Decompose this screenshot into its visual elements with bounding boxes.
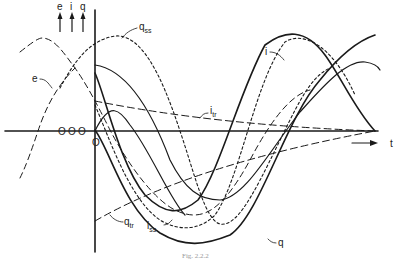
- label-origin: O: [92, 137, 100, 148]
- label-axis-q: q: [80, 1, 86, 12]
- arrow-up-icon: [81, 12, 86, 19]
- label-t: t: [390, 138, 393, 149]
- label-e: e: [32, 73, 38, 84]
- label-i: i: [265, 46, 267, 57]
- figure-caption: Fig. 2.2.2: [182, 252, 209, 260]
- label-q-ss: qss: [139, 21, 152, 34]
- label-offset-1: O: [58, 126, 66, 137]
- arrow-up-icon: [70, 12, 75, 19]
- label-offset-2: O: [68, 126, 76, 137]
- arrow-right-icon: [370, 140, 378, 146]
- leader-q-tr: [110, 215, 123, 222]
- curve-q-tr: [95, 131, 375, 221]
- leader-e: [40, 79, 52, 88]
- leader-q-ss: [122, 28, 137, 38]
- leader-q: [268, 239, 276, 243]
- label-axis-e: e: [57, 1, 63, 12]
- label-q: q: [278, 237, 284, 248]
- label-i-ss: iss: [147, 220, 157, 233]
- transient-response-diagram: e i q t O O O O e i qss itr qtr iss q Fi…: [0, 0, 404, 261]
- label-i-tr: itr: [210, 105, 217, 118]
- label-q-tr: qtr: [124, 216, 135, 229]
- arrow-up-icon: [58, 12, 63, 19]
- curve-e-left-tail: [20, 68, 75, 178]
- label-axis-i: i: [70, 1, 72, 12]
- leader-i-tr: [200, 113, 208, 118]
- label-offset-3: O: [78, 126, 86, 137]
